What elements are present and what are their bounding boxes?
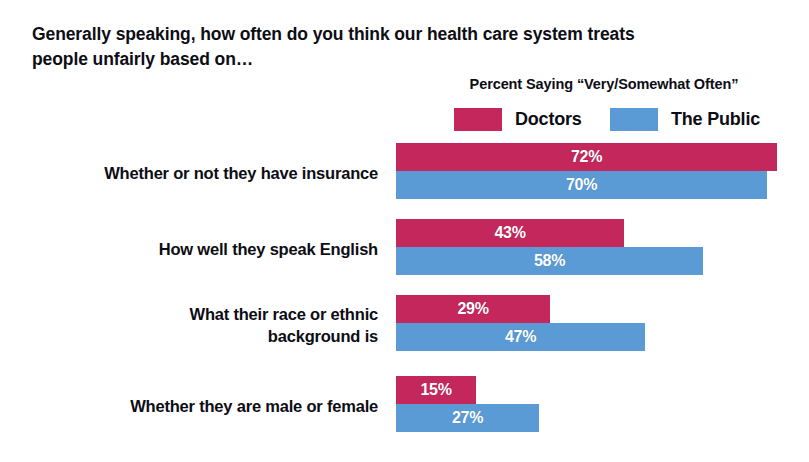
bar-group-label-line: Whether or not they have insurance (18, 162, 378, 184)
bar-the-public: 47% (396, 323, 645, 351)
bar-group-label-line: background is (18, 325, 378, 347)
chart-title-line-1: Generally speaking, how often do you thi… (32, 22, 732, 47)
bar-pair: 72%70% (396, 143, 777, 199)
bar-group-label: How well they speak English (18, 238, 378, 260)
legend-label-the-public: The Public (671, 109, 760, 130)
legend-item-doctors: Doctors (454, 104, 582, 134)
bar-value-label: 70% (566, 176, 597, 194)
bar-group-label-line: How well they speak English (18, 238, 378, 260)
chart-legend: Doctors The Public (414, 104, 796, 134)
bar-value-label: 47% (505, 328, 536, 346)
legend-item-the-public: The Public (610, 104, 760, 134)
bar-chart-plot-area: Whether or not they have insurance72%70%… (0, 138, 809, 438)
legend-label-doctors: Doctors (515, 109, 582, 130)
bar-group-label-line: Whether they are male or female (18, 395, 378, 417)
bar-the-public: 27% (396, 404, 539, 432)
legend-header: Percent Saying “Very/Somewhat Often” (414, 76, 794, 92)
bar-value-label: 58% (534, 252, 565, 270)
chart-title: Generally speaking, how often do you thi… (32, 22, 732, 72)
bar-group-label-line: What their race or ethnic (18, 303, 378, 325)
bar-value-label: 29% (457, 300, 488, 318)
bar-doctors: 43% (396, 219, 624, 247)
bar-doctors: 72% (396, 143, 777, 171)
bar-value-label: 43% (494, 224, 525, 242)
chart-title-line-2: people unfairly based on… (32, 47, 732, 72)
legend-swatch-doctors (454, 108, 502, 131)
bar-doctors: 15% (396, 376, 476, 404)
bar-value-label: 27% (452, 409, 483, 427)
legend-swatch-the-public (610, 108, 658, 131)
bar-pair: 15%27% (396, 376, 539, 432)
bar-the-public: 58% (396, 247, 703, 275)
bar-group-label: Whether they are male or female (18, 395, 378, 417)
bar-value-label: 72% (571, 148, 602, 166)
bar-pair: 29%47% (396, 295, 645, 351)
bar-doctors: 29% (396, 295, 550, 323)
bar-pair: 43%58% (396, 219, 703, 275)
bar-value-label: 15% (420, 381, 451, 399)
bar-group-label: Whether or not they have insurance (18, 162, 378, 184)
bar-the-public: 70% (396, 171, 767, 199)
bar-group-label: What their race or ethnicbackground is (18, 303, 378, 348)
